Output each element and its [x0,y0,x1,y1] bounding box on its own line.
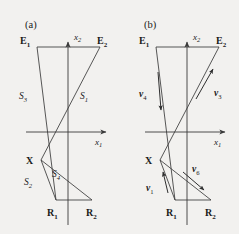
figure-container: (a) x1 x2 E1 E2 R1 R2 X S1 S2 S3 S4 (b) … [0,0,239,234]
panel-a-vertex-X: X [26,155,34,166]
background [0,0,239,234]
panel-b-vertex-X: X [145,155,153,166]
two-panel-diagram: (a) x1 x2 E1 E2 R1 R2 X S1 S2 S3 S4 (b) … [0,0,239,234]
panel-a-caption: (a) [25,19,37,31]
panel-b-caption: (b) [144,19,157,31]
